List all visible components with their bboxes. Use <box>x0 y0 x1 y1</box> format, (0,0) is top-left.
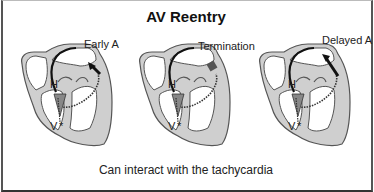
heart-diagram-icon: H V * <box>12 36 136 148</box>
panel-early-a: H V * Early A <box>12 36 136 148</box>
svg-text:*: * <box>59 120 64 132</box>
heart-diagram-icon: H V * <box>130 36 254 148</box>
heart-diagram-icon: H V * <box>250 36 374 148</box>
panel-label-early-a: Early A <box>84 38 119 50</box>
panel-label-termination: Termination <box>198 40 255 52</box>
panel-termination: H V * Termination <box>130 36 254 148</box>
figure-title: AV Reentry <box>0 8 372 25</box>
svg-text:H: H <box>168 78 176 90</box>
panel-label-delayed-a: Delayed A <box>322 34 372 46</box>
svg-text:V: V <box>288 120 296 132</box>
svg-text:H: H <box>288 78 296 90</box>
figure-caption: Can interact with the tachycardia <box>0 163 372 177</box>
svg-text:*: * <box>297 120 302 132</box>
svg-text:V: V <box>50 120 58 132</box>
svg-text:H: H <box>50 78 58 90</box>
panel-delayed-a: H V * Delayed A <box>250 36 374 148</box>
svg-text:V: V <box>168 120 176 132</box>
svg-text:*: * <box>177 120 182 132</box>
